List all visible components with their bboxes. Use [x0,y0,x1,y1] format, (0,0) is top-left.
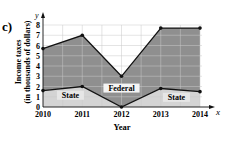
svg-text:Federal: Federal [108,84,135,93]
data-point [159,26,163,30]
x-tick-label: 2012 [114,110,130,119]
data-point [198,90,202,94]
x-axis-title: Year [114,122,131,132]
figure-label: c) [2,19,12,34]
data-point [80,33,84,37]
data-point [198,26,202,30]
y-axis-arrow-icon [41,12,45,18]
area-label: State [163,93,190,103]
income-tax-chart: c) x y 012345678 20102011201220132014 Ye… [0,0,226,143]
x-tick-label: 2011 [74,110,90,119]
y-tick-labels: 012345678 [36,21,40,112]
svg-text:(in thousands of dollars): (in thousands of dollars) [23,20,32,103]
y-tick-label: 5 [36,52,40,61]
y-tick-label: 7 [36,31,40,40]
y-tick-label: 2 [36,83,40,92]
x-axis-arrow-icon [209,105,215,109]
svg-text:State: State [168,93,186,102]
y-tick-label: 8 [36,21,40,30]
area-label: Federal [103,84,139,94]
y-tick-label: 6 [36,42,40,51]
y-tick-label: 3 [36,72,40,81]
data-point [120,74,124,78]
y-axis-title: Income taxes (in thousands of dollars) [14,20,32,103]
y-tick-label: 1 [36,93,40,102]
area-label: State [57,91,84,101]
y-tick-label: 4 [36,62,40,71]
x-tick-label: 2014 [192,110,208,119]
y-axis-symbol: y [34,11,39,20]
x-tick-label: 2013 [153,110,169,119]
x-tick-label: 2010 [35,110,51,119]
x-axis-symbol: x [215,107,220,117]
data-point [80,85,84,89]
svg-text:Income taxes: Income taxes [14,40,23,85]
x-tick-labels: 20102011201220132014 [35,110,208,119]
svg-text:State: State [62,91,80,100]
data-point [159,87,163,91]
